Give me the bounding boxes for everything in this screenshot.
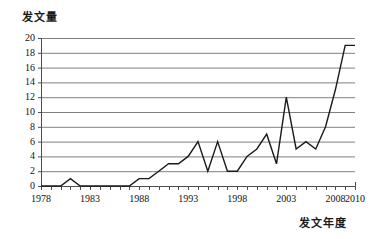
- y-axis-tick-label: 16: [5, 63, 35, 73]
- y-axis-tick-label: 2: [5, 166, 35, 176]
- y-axis-tick-label: 4: [5, 151, 35, 161]
- y-axis-tick-label: 12: [5, 92, 35, 102]
- x-axis-tick-label: 1993: [173, 194, 203, 204]
- y-axis-tick-label: 18: [5, 48, 35, 58]
- y-axis-tick-label: 14: [5, 77, 35, 87]
- x-axis-tick-label: 1978: [26, 194, 56, 204]
- y-axis-tick-label: 20: [5, 33, 35, 43]
- y-axis-tick-label: 0: [5, 181, 35, 191]
- x-axis-tick-label: 2010: [340, 194, 370, 204]
- x-axis-tick-label: 1998: [222, 194, 252, 204]
- x-axis-tick-label: 2003: [271, 194, 301, 204]
- x-axis-tick-label: 1983: [75, 194, 105, 204]
- y-axis-tick-label: 10: [5, 107, 35, 117]
- data-series-line: [41, 45, 355, 186]
- y-axis-tick-label: 6: [5, 137, 35, 147]
- y-axis-tick-label: 8: [5, 122, 35, 132]
- x-axis-tick-label: 1988: [124, 194, 154, 204]
